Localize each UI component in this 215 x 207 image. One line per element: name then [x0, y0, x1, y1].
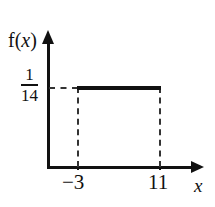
- y-axis-label-prefix: f(: [8, 29, 21, 51]
- guide-line-vertical-right: [159, 87, 161, 167]
- y-axis-arrow-icon: [42, 30, 54, 44]
- guide-line-horizontal: [49, 87, 78, 89]
- x-tick-label-right: 11: [148, 172, 168, 193]
- fraction-numerator: 1: [21, 66, 38, 86]
- guide-line-vertical-left: [77, 87, 79, 167]
- x-axis-arrow-icon: [191, 161, 204, 173]
- fraction-denominator: 14: [21, 86, 38, 104]
- uniform-density-chart: f(x) x −3 11 1 14: [0, 0, 215, 207]
- y-axis-label: f(x): [8, 30, 37, 50]
- density-segment: [77, 86, 161, 90]
- y-axis-line: [47, 42, 50, 168]
- y-value-fraction-label: 1 14: [21, 66, 38, 104]
- x-axis-line: [47, 166, 194, 169]
- y-axis-label-suffix: ): [30, 29, 37, 51]
- y-axis-label-variable: x: [21, 29, 30, 51]
- x-axis-label: x: [194, 176, 202, 195]
- x-tick-label-left: −3: [62, 172, 84, 193]
